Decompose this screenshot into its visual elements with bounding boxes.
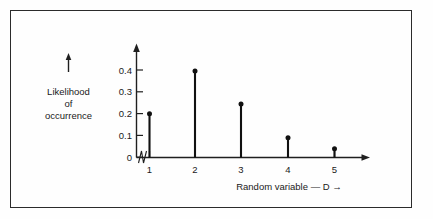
y-axis-title-line-2: of: [65, 98, 73, 109]
y-axis-ticks: 0.4 0.3 0.2 0.1 0: [119, 65, 143, 163]
x-tick-label-2: 2: [192, 164, 197, 175]
y-tick-label-0.2: 0.2: [119, 108, 132, 119]
y-tick-label-0: 0: [127, 152, 132, 163]
x-tick-label-4: 4: [285, 164, 290, 175]
x-axis-title: Random variable — D →: [236, 181, 342, 192]
y-axis-title-group: Likelihood of occurrence: [45, 53, 92, 121]
x-axis-break-icon: [139, 151, 147, 163]
stem-marker-1: [147, 111, 152, 116]
stem-plot-chart: Likelihood of occurrence 0.4 0.3 0.2 0.1…: [0, 0, 433, 219]
stem-marker-3: [239, 101, 244, 106]
y-axis-title-line-3: occurrence: [45, 110, 92, 121]
data-series-stems: [147, 69, 337, 158]
x-tick-label-5: 5: [332, 164, 337, 175]
x-axis-title-group: Random variable — D →: [236, 181, 342, 192]
y-axis: [133, 44, 140, 158]
y-axis-title-line-1: Likelihood: [47, 86, 90, 97]
stem-marker-2: [193, 69, 198, 74]
y-tick-label-0.3: 0.3: [119, 86, 132, 97]
stem-marker-4: [286, 135, 291, 140]
stem-marker-5: [332, 146, 337, 151]
x-axis-arrowhead: [362, 154, 371, 160]
x-tick-label-1: 1: [147, 164, 152, 175]
figure: Likelihood of occurrence 0.4 0.3 0.2 0.1…: [0, 0, 433, 219]
y-tick-label-0.4: 0.4: [119, 65, 132, 76]
up-arrow-icon: [66, 53, 72, 72]
y-axis-arrowhead: [133, 44, 140, 53]
y-tick-label-0.1: 0.1: [119, 130, 132, 141]
x-tick-label-3: 3: [238, 164, 243, 175]
